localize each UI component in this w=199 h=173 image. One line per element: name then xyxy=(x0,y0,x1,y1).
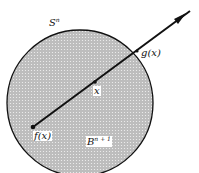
ball-label: Bn + 1 xyxy=(86,136,112,147)
x-label: x xyxy=(93,86,101,96)
sphere-label: Sn xyxy=(49,17,60,28)
ball-disk xyxy=(7,30,153,173)
point-f xyxy=(31,125,36,130)
g-label: g(x) xyxy=(141,48,161,58)
point-g xyxy=(135,49,138,52)
retraction-diagram: Sn g(x) x f(x) Bn + 1 xyxy=(0,0,199,173)
f-label: f(x) xyxy=(33,131,52,141)
point-x xyxy=(93,80,97,84)
